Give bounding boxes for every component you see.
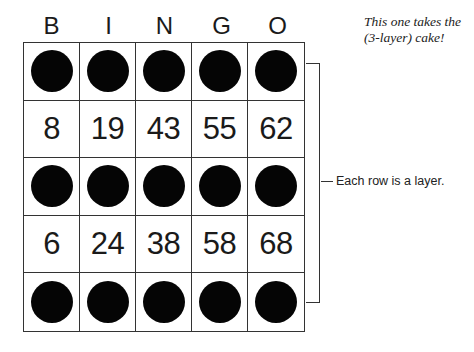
marker-dot-icon: [255, 50, 297, 92]
cell-value: 8: [43, 111, 60, 147]
bingo-card: 8 19 43 55 62 6 24 38 58 68: [23, 42, 305, 332]
cell-number: 8: [24, 101, 80, 159]
cell-number: 38: [136, 216, 192, 274]
cell-number: 68: [248, 216, 304, 274]
bracket-leader-line: [321, 181, 333, 182]
cell-marked: [136, 43, 192, 101]
cell-marked: [248, 43, 304, 101]
bracket-label: Each row is a layer.: [336, 174, 444, 188]
marker-dot-icon: [255, 281, 297, 323]
cell-marked: [136, 158, 192, 216]
cell-value: 38: [147, 226, 180, 262]
marker-dot-icon: [143, 281, 185, 323]
cell-value: 19: [91, 111, 124, 147]
layer-bracket: [306, 63, 320, 303]
cell-number: 6: [24, 216, 80, 274]
marker-dot-icon: [87, 50, 129, 92]
cell-value: 43: [147, 111, 180, 147]
cell-number: 55: [192, 101, 248, 159]
cell-marked: [192, 273, 248, 331]
column-header-g: G: [193, 12, 250, 40]
marker-dot-icon: [87, 281, 129, 323]
cell-value: 55: [203, 111, 236, 147]
cell-value: 6: [43, 226, 60, 262]
cell-marked: [136, 273, 192, 331]
caption-line-2: (3-layer) cake!: [364, 30, 474, 46]
cell-value: 68: [259, 226, 292, 262]
marker-dot-icon: [31, 165, 73, 207]
cell-marked: [80, 158, 136, 216]
marker-dot-icon: [87, 165, 129, 207]
marker-dot-icon: [199, 281, 241, 323]
cell-value: 62: [259, 111, 292, 147]
cell-marked: [24, 158, 80, 216]
cell-number: 43: [136, 101, 192, 159]
marker-dot-icon: [143, 50, 185, 92]
marker-dot-icon: [31, 50, 73, 92]
caption-line-1: This one takes the: [364, 14, 474, 30]
marker-dot-icon: [199, 165, 241, 207]
cell-marked: [24, 43, 80, 101]
column-header-i: I: [80, 12, 137, 40]
marker-dot-icon: [255, 165, 297, 207]
cell-marked: [248, 158, 304, 216]
cell-marked: [192, 43, 248, 101]
cell-value: 24: [91, 226, 124, 262]
cell-number: 62: [248, 101, 304, 159]
cell-marked: [248, 273, 304, 331]
cell-value: 58: [203, 226, 236, 262]
cell-marked: [80, 43, 136, 101]
caption-note: This one takes the (3-layer) cake!: [364, 14, 474, 46]
marker-dot-icon: [143, 165, 185, 207]
marker-dot-icon: [199, 50, 241, 92]
marker-dot-icon: [31, 281, 73, 323]
column-header-b: B: [23, 12, 80, 40]
cell-marked: [80, 273, 136, 331]
column-header-o: O: [249, 12, 306, 40]
column-header-n: N: [136, 12, 193, 40]
cell-marked: [192, 158, 248, 216]
cell-number: 19: [80, 101, 136, 159]
cell-number: 24: [80, 216, 136, 274]
cell-number: 58: [192, 216, 248, 274]
cell-marked: [24, 273, 80, 331]
